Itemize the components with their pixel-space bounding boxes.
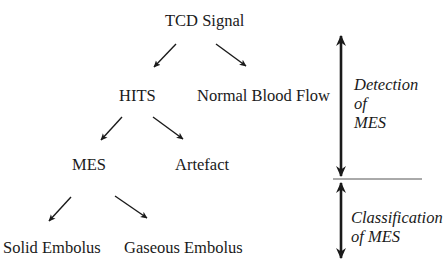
detection-label-line1: Detection	[354, 75, 418, 94]
node-artefact: Artefact	[175, 156, 229, 174]
node-tcd-signal: TCD Signal	[165, 12, 244, 30]
arrow-mes-to-solid-embolus	[49, 197, 71, 221]
node-hits: HITS	[119, 87, 156, 105]
mes-detection-classification-diagram: TCD Signal HITS Normal Blood Flow MES Ar…	[0, 0, 448, 270]
detection-label-line3: MES	[354, 113, 418, 132]
classification-of-mes-label: Classification of MES	[351, 208, 443, 246]
node-normal-blood-flow: Normal Blood Flow	[197, 87, 330, 105]
node-solid-embolus: Solid Embolus	[3, 239, 101, 257]
detection-label-line2: of	[354, 94, 418, 113]
node-mes: MES	[72, 156, 106, 174]
classification-label-line1: Classification	[351, 208, 443, 227]
arrow-mes-to-gaseous-embolus	[115, 196, 147, 218]
classification-label-line2: of MES	[351, 227, 443, 246]
arrow-tcd-to-normal-blood-flow	[216, 44, 246, 66]
node-gaseous-embolus: Gaseous Embolus	[124, 239, 243, 257]
arrow-hits-to-mes	[101, 117, 122, 140]
arrow-tcd-to-hits	[154, 44, 176, 67]
arrow-hits-to-artefact	[153, 117, 183, 139]
detection-of-mes-label: Detection of MES	[354, 75, 418, 132]
